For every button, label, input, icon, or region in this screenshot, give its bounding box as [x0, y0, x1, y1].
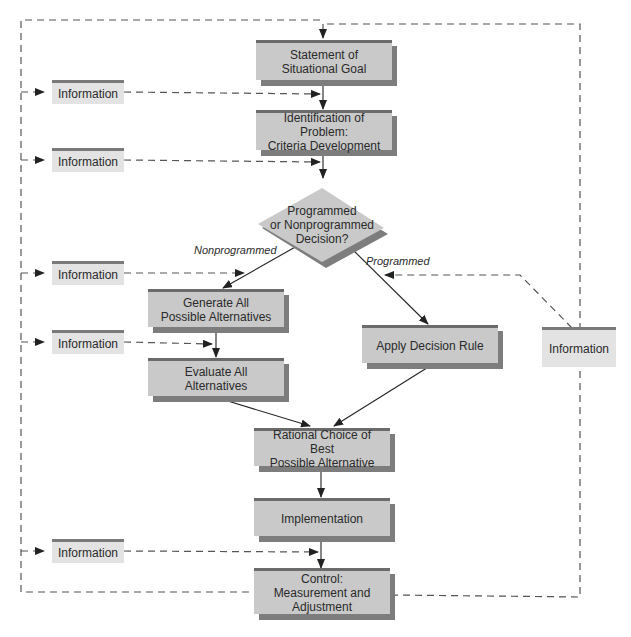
node-text: Possible Alternative	[270, 456, 375, 470]
node-text: Apply Decision Rule	[376, 339, 483, 353]
node-apply-decision-rule: Apply Decision Rule	[362, 325, 498, 363]
node-rational-choice: Rational Choice of Best Possible Alterna…	[254, 428, 390, 466]
node-text: Possible Alternatives	[161, 310, 272, 324]
node-text: Situational Goal	[282, 62, 367, 76]
node-text: Evaluate All Alternatives	[154, 365, 278, 393]
node-text: Measurement and	[274, 586, 371, 600]
node-text: Criteria Development	[268, 139, 381, 153]
node-text: Control:	[301, 572, 343, 586]
node-text: Statement of	[290, 48, 358, 62]
node-implementation: Implementation	[254, 498, 390, 536]
info-box-goal: Information	[52, 80, 124, 104]
info-box-generate: Information	[52, 261, 124, 285]
decision-line: Programmed	[256, 204, 388, 218]
decision-text: Programmed or Nonprogrammed Decision?	[256, 204, 388, 246]
node-text: Identification of Problem:	[262, 111, 386, 139]
info-text: Information	[58, 155, 118, 169]
info-text: Information	[58, 337, 118, 351]
node-evaluate-alternatives: Evaluate All Alternatives	[148, 358, 284, 396]
info-box-problem: Information	[52, 148, 124, 172]
decision-line: or Nonprogrammed	[256, 218, 388, 232]
edge-label-programmed: Programmed	[366, 255, 430, 267]
info-box-evaluate: Information	[52, 330, 124, 354]
info-text: Information	[58, 268, 118, 282]
node-text: Implementation	[281, 512, 363, 526]
info-text: Information	[58, 87, 118, 101]
node-text: Adjustment	[292, 600, 352, 614]
node-text: Generate All	[183, 296, 249, 310]
node-problem-identification: Identification of Problem: Criteria Deve…	[256, 110, 392, 150]
node-control: Control: Measurement and Adjustment	[254, 568, 390, 614]
node-generate-alternatives: Generate All Possible Alternatives	[148, 289, 284, 327]
node-text: Rational Choice of Best	[260, 428, 384, 456]
node-situational-goal: Statement of Situational Goal	[256, 40, 392, 80]
info-text: Information	[58, 546, 118, 560]
info-box-programmed: Information	[542, 327, 616, 367]
edge-label-nonprogrammed: Nonprogrammed	[194, 244, 277, 256]
info-text: Information	[549, 342, 609, 356]
info-box-implementation: Information	[52, 539, 124, 563]
